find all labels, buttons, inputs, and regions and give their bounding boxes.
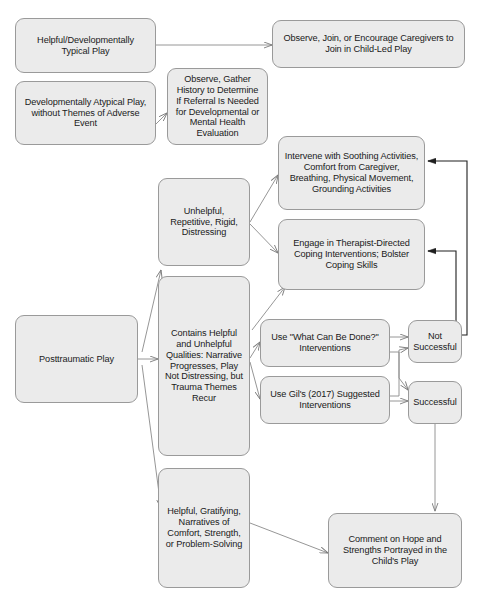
edge-gratifying-to-comment <box>250 523 328 553</box>
node-helpful-gratifying[interactable]: Helpful, Gratifying, Narratives of Comfo… <box>158 468 250 588</box>
edge-gil-to-not-successful <box>390 348 408 396</box>
node-comment-on-hope[interactable]: Comment on Hope and Strengths Portrayed … <box>328 513 462 588</box>
edge-contains-to-what-can-be-done <box>250 342 260 358</box>
node-intervene-soothing[interactable]: Intervene with Soothing Activities, Comf… <box>278 136 425 210</box>
node-observe-gather-history[interactable]: Observe, Gather History to Determine If … <box>167 68 268 145</box>
node-atypical-play[interactable]: Developmentally Atypical Play, without T… <box>15 81 156 145</box>
node-not-successful[interactable]: Not Successful <box>408 320 462 363</box>
edge-what-can-be-done-to-successful <box>390 352 408 390</box>
node-helpful-typical-play[interactable]: Helpful/Developmentally Typical Play <box>15 18 156 73</box>
node-observe-join-encourage[interactable]: Observe, Join, or Encourage Caregivers t… <box>272 20 465 68</box>
node-unhelpful-repetitive[interactable]: Unhelpful, Repetitive, Rigid, Distressin… <box>158 178 250 266</box>
node-engage-therapist-directed[interactable]: Engage in Therapist-Directed Coping Inte… <box>278 219 425 290</box>
edge-unhelpful-to-engage <box>250 224 278 253</box>
flowchart-canvas: Helpful/Developmentally Typical Play Obs… <box>0 0 478 601</box>
node-contains-helpful-unhelpful[interactable]: Contains Helpful and Unhelpful Qualities… <box>158 276 250 456</box>
edge-contains-to-gil <box>250 362 260 399</box>
edge-unhelpful-to-intervene <box>250 175 278 222</box>
node-use-what-can-be-done[interactable]: Use "What Can Be Done?" Interventions <box>260 319 390 367</box>
node-posttraumatic-play[interactable]: Posttraumatic Play <box>15 315 138 403</box>
edge-not-successful-to-intervene <box>428 161 467 335</box>
edge-atypical-to-gather-history <box>156 113 167 124</box>
node-successful[interactable]: Successful <box>408 381 462 424</box>
node-use-gil-interventions[interactable]: Use Gil's (2017) Suggested Interventions <box>260 376 390 424</box>
